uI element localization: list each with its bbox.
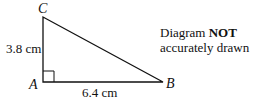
not-to-scale-note: Diagram NOT accurately drawn <box>160 25 249 55</box>
side-label-ac: 3.8 cm <box>6 41 41 56</box>
note-prefix: Diagram <box>160 25 209 40</box>
triangle-abc <box>43 17 163 82</box>
right-angle-marker <box>43 71 54 82</box>
vertex-label-b: B <box>166 76 175 91</box>
note-emphasis: NOT <box>209 25 237 40</box>
note-suffix: accurately drawn <box>160 40 249 55</box>
vertex-label-a: A <box>28 77 38 92</box>
vertex-label-c: C <box>38 1 48 16</box>
side-label-ab: 6.4 cm <box>82 85 117 100</box>
